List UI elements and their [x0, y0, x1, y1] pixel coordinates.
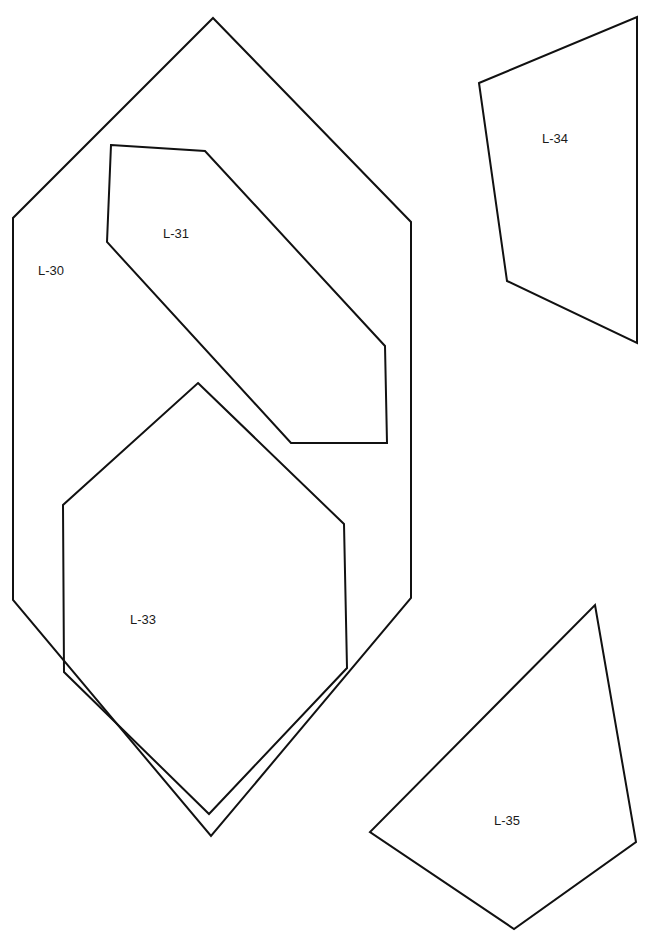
piece-l35-label: L-35	[494, 813, 520, 828]
piece-l30-outline	[13, 18, 411, 836]
piece-l31-label: L-31	[163, 226, 189, 241]
piece-l33-outline	[63, 383, 347, 814]
piece-l35: L-35	[370, 605, 636, 929]
piece-l30-label: L-30	[38, 263, 64, 278]
piece-l31: L-31	[107, 145, 387, 443]
piece-l30: L-30	[13, 18, 411, 836]
piece-l34: L-34	[479, 17, 637, 343]
piece-l33: L-33	[63, 383, 347, 814]
piece-l35-outline	[370, 605, 636, 929]
piece-l33-label: L-33	[130, 612, 156, 627]
piece-l31-outline	[107, 145, 387, 443]
piece-l34-outline	[479, 17, 637, 343]
piece-l34-label: L-34	[542, 131, 568, 146]
pattern-sheet: L-30 L-31 L-33 L-34 L-35	[0, 0, 649, 939]
